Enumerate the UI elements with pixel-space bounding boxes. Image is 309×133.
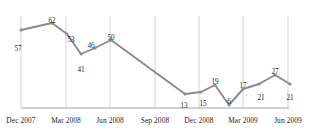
data-value-label: 27 — [271, 68, 278, 76]
data-value-label: 15 — [199, 100, 206, 108]
data-value-label: 53 — [67, 36, 74, 44]
data-value-label: 6 — [227, 98, 231, 106]
data-point-marker — [184, 93, 187, 96]
data-point-markers — [20, 22, 292, 107]
x-tick-label-0: Dec 2007 — [6, 116, 35, 125]
data-value-label: 50 — [107, 34, 114, 42]
x-tick-label-6: Jun 2009 — [274, 116, 302, 125]
data-value-label: 21 — [257, 94, 264, 102]
data-point-marker — [258, 83, 261, 86]
chart-plot-area — [0, 0, 309, 133]
data-point-marker — [80, 53, 83, 56]
x-tick-label-4: Dec 2008 — [184, 116, 213, 125]
data-value-label: 46 — [87, 42, 94, 50]
data-point-marker — [20, 29, 23, 32]
data-value-label: 41 — [77, 66, 84, 74]
line-chart: 576253414650131519617212721 Dec 2007Mar … — [0, 0, 309, 133]
x-tick-label-3: Sep 2008 — [141, 116, 170, 125]
x-tick-label-1: Mar 2008 — [51, 116, 81, 125]
data-value-label: 62 — [48, 17, 55, 25]
data-value-label: 19 — [211, 78, 218, 86]
data-value-label: 13 — [180, 102, 187, 110]
data-value-label: 17 — [239, 82, 246, 90]
data-point-marker — [200, 91, 203, 94]
x-tick-label-2: Jun 2008 — [96, 116, 124, 125]
data-value-label: 57 — [14, 45, 21, 53]
data-series-line — [21, 23, 290, 105]
data-value-label: 21 — [286, 94, 293, 102]
data-point-marker — [289, 83, 292, 86]
x-tick-label-5: Mar 2009 — [228, 116, 258, 125]
